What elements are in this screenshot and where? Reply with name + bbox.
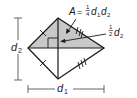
area-formula-label: A = 1 4 d 1 d 2: [68, 4, 111, 18]
svg-text:A: A: [68, 6, 76, 17]
svg-text:2: 2: [18, 47, 22, 54]
svg-text:d: d: [11, 41, 18, 53]
rhombus-area-diagram: A = 1 4 d 1 d 2 1 2 d 2 d 2 d 1: [0, 0, 137, 98]
svg-text:1: 1: [86, 4, 90, 10]
svg-text:2: 2: [120, 33, 124, 39]
d2-label: d 2: [11, 41, 22, 54]
svg-text:1: 1: [64, 88, 68, 95]
svg-text:2: 2: [109, 31, 113, 37]
svg-text:2: 2: [107, 12, 111, 18]
svg-text:1: 1: [109, 24, 113, 30]
svg-text:=: =: [77, 7, 82, 17]
d1-label: d 1: [57, 82, 68, 95]
half-diagonal-label: 1 2 d 2: [109, 24, 125, 39]
svg-text:d: d: [57, 82, 64, 94]
svg-text:4: 4: [86, 11, 90, 17]
